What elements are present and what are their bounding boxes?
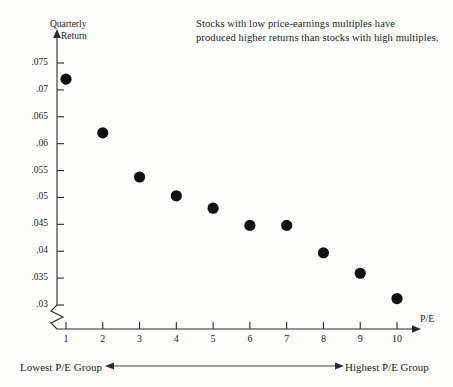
axis-break-zigzag bbox=[51, 305, 63, 329]
plot-area bbox=[0, 0, 453, 387]
data-points-group bbox=[60, 74, 402, 305]
data-point bbox=[208, 203, 219, 214]
y-axis-arrowhead bbox=[53, 29, 61, 38]
range-arrow-group bbox=[105, 363, 344, 370]
data-point bbox=[134, 171, 145, 182]
data-point bbox=[60, 74, 71, 85]
y-axis-ticks bbox=[57, 63, 64, 305]
data-point bbox=[391, 293, 402, 304]
data-point bbox=[244, 220, 255, 231]
range-arrow-right-head bbox=[335, 363, 344, 370]
data-point bbox=[318, 247, 329, 258]
data-point bbox=[97, 127, 108, 138]
x-axis-arrowhead bbox=[412, 325, 421, 333]
range-arrow-left-head bbox=[105, 363, 114, 370]
axes-group bbox=[51, 29, 421, 333]
chart-figure: Stocks with low price-earnings multiples… bbox=[0, 0, 453, 387]
data-point bbox=[355, 268, 366, 279]
data-point bbox=[281, 220, 292, 231]
x-axis-ticks bbox=[66, 322, 397, 329]
lowest-pe-group-label: Lowest P/E Group bbox=[20, 361, 102, 373]
data-point bbox=[171, 190, 182, 201]
highest-pe-group-label: Highest P/E Group bbox=[345, 361, 429, 373]
